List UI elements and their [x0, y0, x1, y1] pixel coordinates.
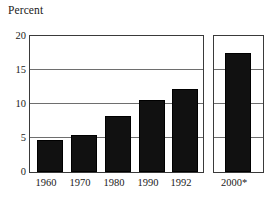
bar-chart-figure: Percent 20 15 10 5 0 1960 1970 1980 1990… — [0, 0, 271, 201]
bars-layer-projected — [214, 36, 263, 172]
y-tick-label: 15 — [4, 65, 26, 75]
bar-1970 — [71, 135, 97, 172]
y-tick-label: 5 — [4, 133, 26, 143]
bars-layer-historical — [30, 36, 203, 172]
bar-1960 — [37, 140, 63, 172]
y-axis: 20 15 10 5 0 — [2, 0, 26, 201]
x-tick-label-2000: 2000* — [206, 177, 262, 189]
plot-panel-historical — [29, 35, 204, 173]
x-tick-label-1992: 1992 — [157, 177, 205, 189]
bar-1980 — [105, 116, 131, 172]
bar-2000 — [225, 53, 251, 172]
bar-1990 — [139, 100, 165, 172]
bar-1992 — [172, 89, 198, 172]
plot-panel-projected — [213, 35, 264, 173]
y-tick-label: 20 — [4, 31, 26, 41]
y-tick-label: 0 — [4, 167, 26, 177]
y-tick-label: 10 — [4, 99, 26, 109]
